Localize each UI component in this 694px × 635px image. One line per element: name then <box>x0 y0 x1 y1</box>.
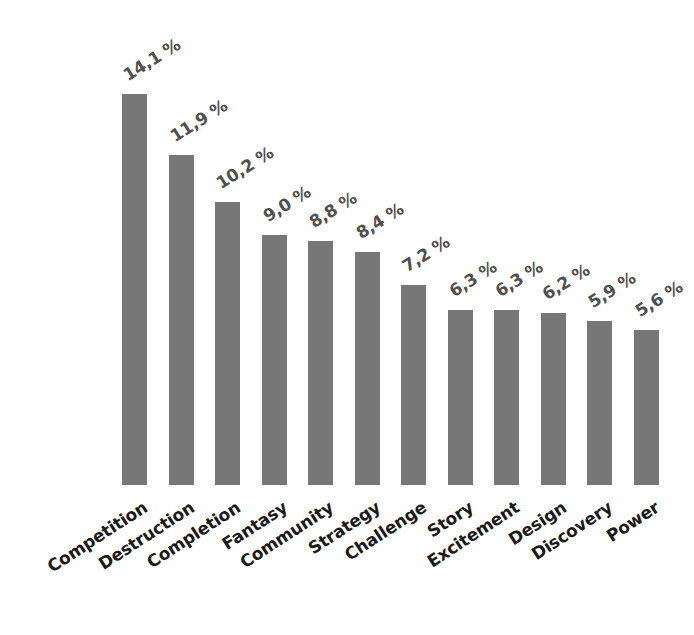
bar-value-label: 5,6 % <box>631 276 686 321</box>
bar-value-label: 8,4 % <box>352 199 407 244</box>
bar[interactable] <box>215 202 240 485</box>
bar-value-label: 7,2 % <box>398 232 453 277</box>
bar-chart: 14,1 %Competition11,9 %Destruction10,2 %… <box>0 0 694 635</box>
bar[interactable] <box>448 310 473 485</box>
bar[interactable] <box>355 252 380 485</box>
bar-value-label: 11,9 % <box>166 95 231 146</box>
bar-value-label: 6,2 % <box>538 260 593 305</box>
bar[interactable] <box>122 94 147 485</box>
bar-value-label: 9,0 % <box>259 182 314 227</box>
bar[interactable] <box>541 313 566 485</box>
plot-area: 14,1 %Competition11,9 %Destruction10,2 %… <box>0 0 694 635</box>
bar[interactable] <box>169 155 194 485</box>
bar-value-label: 14,1 % <box>119 34 184 85</box>
bar[interactable] <box>401 285 426 485</box>
bar[interactable] <box>308 241 333 485</box>
bar-value-label: 10,2 % <box>212 142 277 193</box>
bar[interactable] <box>494 310 519 485</box>
bar-value-label: 6,3 % <box>445 257 500 302</box>
bar[interactable] <box>587 321 612 485</box>
bar-value-label: 6,3 % <box>491 257 546 302</box>
bar[interactable] <box>262 235 287 485</box>
bar[interactable] <box>634 330 659 485</box>
category-label: Power <box>602 497 662 546</box>
